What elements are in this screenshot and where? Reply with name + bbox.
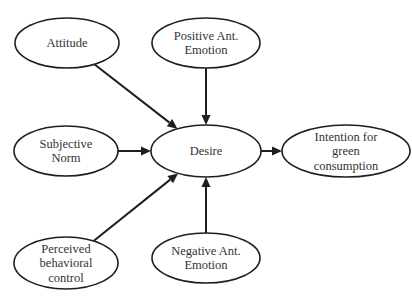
edge-line [94,64,169,122]
edge-subjective_norm-to-desire [118,147,151,156]
node-label: Perceived [41,242,91,256]
node-intention: Intention forgreenconsumption [282,125,410,177]
edge-negative_emotion-to-desire [202,177,211,233]
node-label: Desire [190,144,223,158]
node-label: Positive Ant. [174,29,239,43]
node-subjective-norm: SubjectiveNorm [14,126,118,176]
node-label: behavioral [40,256,93,270]
arrowhead-icon [141,147,151,156]
node-label: Attitude [47,36,88,50]
node-attitude: Attitude [15,18,119,68]
edge-perceived_control-to-desire [94,173,178,241]
node-positive-emotion: Positive Ant.Emotion [152,18,260,68]
nodes: AttitudePositive Ant.EmotionSubjectiveNo… [14,18,410,289]
edge-attitude-to-desire [94,64,177,129]
path-diagram: AttitudePositive Ant.EmotionSubjectiveNo… [0,0,412,297]
node-label: Emotion [184,258,228,272]
edge-positive_emotion-to-desire [202,68,211,125]
arrowhead-icon [202,177,211,187]
node-label: Subjective [40,137,93,151]
node-label: Intention for [315,130,379,144]
node-label: green [332,144,361,158]
node-label: Negative Ant. [171,244,240,258]
node-label: Emotion [184,43,228,57]
arrowhead-icon [202,115,211,125]
edge-desire-to-intention [261,147,282,156]
node-label: control [48,271,84,285]
node-desire: Desire [151,125,261,177]
node-label: Norm [51,151,80,165]
node-label: consumption [314,159,379,173]
node-perceived-control: Perceivedbehavioralcontrol [14,237,118,289]
node-negative-emotion: Negative Ant.Emotion [152,233,260,283]
arrowhead-icon [272,147,282,156]
edge-line [94,180,171,241]
